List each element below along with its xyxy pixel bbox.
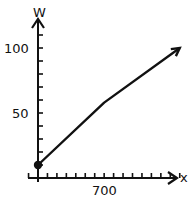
y-tick-label-50: 50 [12, 107, 29, 120]
series-line [38, 48, 180, 165]
chart-canvas [0, 0, 193, 202]
y-axis-label: W [33, 6, 46, 19]
y-tick-label-100: 100 [4, 42, 29, 55]
x-axis-label: x [180, 171, 188, 184]
start-point-marker [34, 161, 42, 169]
x-tick-label-700: 700 [92, 184, 117, 197]
